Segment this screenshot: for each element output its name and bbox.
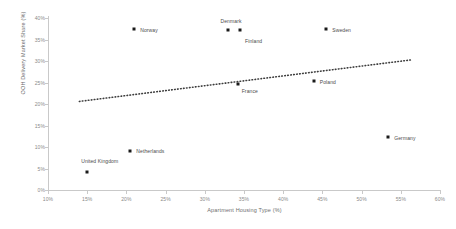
data-point [325,27,328,30]
data-point-label: Finland [245,38,262,44]
y-tick-mark [45,83,48,84]
y-tick-label: 20% [35,101,45,107]
data-point-label: Sweden [332,27,351,33]
x-tick-label: 45% [317,196,327,202]
x-tick-mark [362,191,363,194]
trendline [0,0,456,229]
y-tick-mark [45,40,48,41]
y-tick-mark [45,18,48,19]
x-tick-label: 50% [356,196,366,202]
scatter-chart: 0%5%10%15%20%25%30%35%40% OOH Delivery M… [0,0,456,229]
x-tick-mark [401,191,402,194]
y-tick-mark [45,147,48,148]
data-point [239,29,242,32]
data-point [312,79,315,82]
x-tick-mark [322,191,323,194]
data-point-label: Netherlands [136,148,164,154]
x-tick-label: 35% [239,196,249,202]
x-tick-label: 10% [43,196,53,202]
y-tick-label: 5% [38,166,45,172]
data-point [236,82,239,85]
y-tick-label: 40% [35,15,45,21]
data-point-label: Germany [394,135,415,141]
data-point-label: Norway [140,27,158,33]
x-tick-label: 40% [278,196,288,202]
x-tick-mark [166,191,167,194]
data-point [129,150,132,153]
y-tick-mark [45,169,48,170]
x-tick-mark [126,191,127,194]
data-point [133,27,136,30]
x-tick-label: 20% [121,196,131,202]
y-tick-mark [45,104,48,105]
y-tick-label: 10% [35,144,45,150]
y-tick-label: 25% [35,80,45,86]
x-tick-label: 55% [396,196,406,202]
y-tick-label: 0% [38,187,45,193]
y-tick-label: 15% [35,123,45,129]
y-tick-label: 30% [35,58,45,64]
x-tick-mark [48,191,49,194]
y-tick-mark [45,126,48,127]
data-point [86,170,89,173]
x-tick-mark [244,191,245,194]
x-axis-title: Apartment Housing Type (%) [48,207,441,213]
x-tick-mark [283,191,284,194]
y-axis-title: OOH Delivery Market Share (%) [20,0,26,123]
data-point-label: France [242,88,258,94]
y-axis-line [48,16,49,191]
x-tick-label: 25% [160,196,170,202]
y-tick-mark [45,61,48,62]
x-tick-mark [440,191,441,194]
data-point [226,29,229,32]
x-tick-label: 15% [82,196,92,202]
data-point-label: United Kingdom [81,158,118,164]
x-tick-label: 60% [435,196,445,202]
y-tick-label: 35% [35,37,45,43]
x-tick-mark [205,191,206,194]
data-point-label: Denmark [221,18,242,24]
x-tick-mark [87,191,88,194]
data-point-label: Poland [320,79,336,85]
x-tick-label: 30% [200,196,210,202]
data-point [387,135,390,138]
